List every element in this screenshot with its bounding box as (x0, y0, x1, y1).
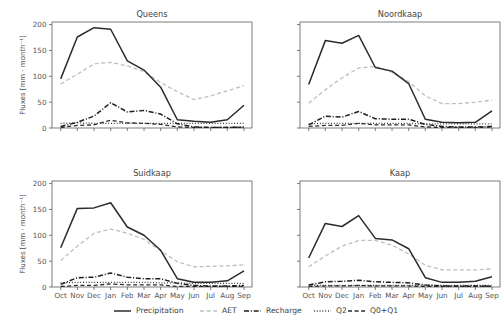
legend-label-recharge: Recharge (266, 306, 302, 315)
panel-kaap: KaapOctNovDecJanFebMarAprMayJunJulAugSep (297, 168, 500, 300)
x-tick-label: Dec (87, 291, 101, 300)
y-tick-label: 50 (37, 257, 47, 266)
x-tick-label: Oct (302, 291, 315, 300)
x-tick-label: Feb (121, 291, 134, 300)
x-tick-label: Sep (237, 291, 251, 300)
x-tick-label: Jul (453, 291, 463, 300)
x-tick-label: Aug (468, 291, 482, 300)
y-axis-label: Fluxes [mm · month⁻¹] (19, 194, 27, 274)
panel-title: Suidkaap (133, 168, 171, 178)
x-tick-label: Jan (104, 291, 116, 300)
y-tick-label: 100 (33, 231, 47, 240)
x-tick-label: Apr (402, 291, 414, 300)
x-tick-label: Feb (369, 291, 382, 300)
x-tick-label: Oct (54, 291, 67, 300)
y-tick-label: 150 (33, 205, 47, 214)
x-tick-label: Jan (352, 291, 364, 300)
y-axis-label: Fluxes [mm · month⁻¹] (19, 35, 27, 115)
x-tick-label: Mar (137, 291, 151, 300)
x-tick-label: Nov (318, 291, 333, 300)
legend-label-aet: AET (222, 306, 237, 315)
x-tick-label: May (170, 291, 186, 300)
panel-queens: Queens050100150200Fluxes [mm · month⁻¹] (19, 9, 252, 133)
x-tick-label: Jun (435, 291, 447, 300)
panel-title: Queens (136, 9, 167, 19)
x-tick-label: Mar (385, 291, 399, 300)
y-tick-label: 150 (33, 46, 47, 55)
fluxes-multi-panel-figure: Queens050100150200Fluxes [mm · month⁻¹]N… (0, 0, 504, 332)
legend-label-q2: Q2 (336, 306, 347, 315)
legend-label-precipitation: Precipitation (136, 306, 184, 315)
x-tick-label: Apr (154, 291, 166, 300)
x-tick-label: Jul (205, 291, 215, 300)
y-tick-label: 100 (33, 72, 47, 81)
y-tick-label: 50 (37, 98, 47, 107)
y-tick-label: 200 (33, 179, 47, 188)
x-tick-label: May (418, 291, 434, 300)
y-tick-label: 200 (33, 20, 47, 29)
x-tick-label: Sep (485, 291, 499, 300)
panel-noordkaap: Noordkaap (297, 9, 500, 131)
y-tick-label: 0 (42, 124, 47, 133)
x-tick-label: Nov (70, 291, 85, 300)
legend-label-q0plusq1: Q0+Q1 (370, 306, 398, 315)
panel-title: Kaap (390, 168, 410, 178)
x-tick-label: Jun (187, 291, 199, 300)
x-tick-label: Aug (220, 291, 234, 300)
y-tick-label: 0 (42, 283, 47, 292)
panel-suidkaap: Suidkaap050100150200Fluxes [mm · month⁻¹… (19, 168, 252, 300)
x-tick-label: Dec (335, 291, 349, 300)
panel-title: Noordkaap (378, 9, 422, 19)
